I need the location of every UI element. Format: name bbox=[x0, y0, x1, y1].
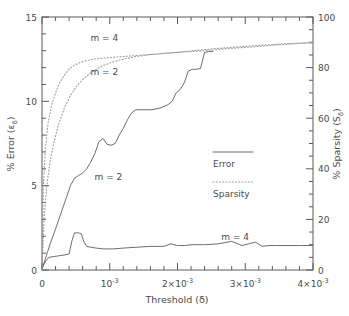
axes-frame bbox=[42, 17, 313, 270]
y2-tick-label: 60 bbox=[318, 114, 330, 124]
y-tick-label: 0 bbox=[31, 266, 37, 276]
y2-tick-label: 40 bbox=[318, 164, 330, 174]
chart-figure: 010-32×10-33×10-34×10-305101502040608010… bbox=[0, 0, 349, 316]
axis-titles: Threshold (δ) % Error (εδ) % Sparsity (S… bbox=[5, 108, 345, 305]
curve-error-m-2 bbox=[42, 52, 213, 270]
x-tick-label: 4×10-3 bbox=[297, 277, 328, 289]
x-tick-label: 0 bbox=[39, 279, 45, 289]
legend-label-error: Error bbox=[213, 159, 235, 169]
y-axis-title: % Error (εδ) bbox=[5, 117, 19, 172]
legend: Error Sparsity bbox=[213, 152, 253, 199]
plot-frame bbox=[42, 17, 313, 270]
curve-sparsity-m-4 bbox=[42, 43, 313, 270]
y2-tick-label: 80 bbox=[318, 63, 330, 73]
y-tick-label: 10 bbox=[26, 97, 38, 107]
curve-annotations: m = 4m = 2m = 2m = 4 bbox=[90, 33, 249, 243]
axis-tick-labels: 010-32×10-33×10-34×10-305101502040608010… bbox=[26, 13, 336, 290]
chart-svg: 010-32×10-33×10-34×10-305101502040608010… bbox=[0, 0, 349, 316]
y2-tick-label: 100 bbox=[318, 13, 335, 23]
x-tick-label: 3×10-3 bbox=[230, 277, 261, 289]
y2-tick-label: 0 bbox=[318, 266, 324, 276]
x-tick-label: 10-3 bbox=[101, 277, 119, 289]
y-tick-label: 15 bbox=[26, 13, 37, 23]
y2-tick-label: 20 bbox=[318, 215, 330, 225]
x-tick-label: 2×10-3 bbox=[162, 277, 193, 289]
y2-axis-title: % Sparsity (Sδ) bbox=[331, 108, 345, 179]
axis-ticks bbox=[42, 17, 313, 270]
data-curves bbox=[42, 43, 313, 270]
annotation-sparsity-m4: m = 4 bbox=[90, 33, 118, 43]
legend-label-sparsity: Sparsity bbox=[213, 189, 250, 199]
x-axis-title: Threshold (δ) bbox=[144, 294, 208, 305]
annotation-sparsity-m2: m = 2 bbox=[90, 67, 118, 77]
curve-sparsity-m-2 bbox=[42, 43, 313, 270]
annotation-error-m4: m = 4 bbox=[221, 232, 249, 242]
y-tick-label: 5 bbox=[31, 181, 37, 191]
annotation-error-m2: m = 2 bbox=[95, 172, 123, 182]
